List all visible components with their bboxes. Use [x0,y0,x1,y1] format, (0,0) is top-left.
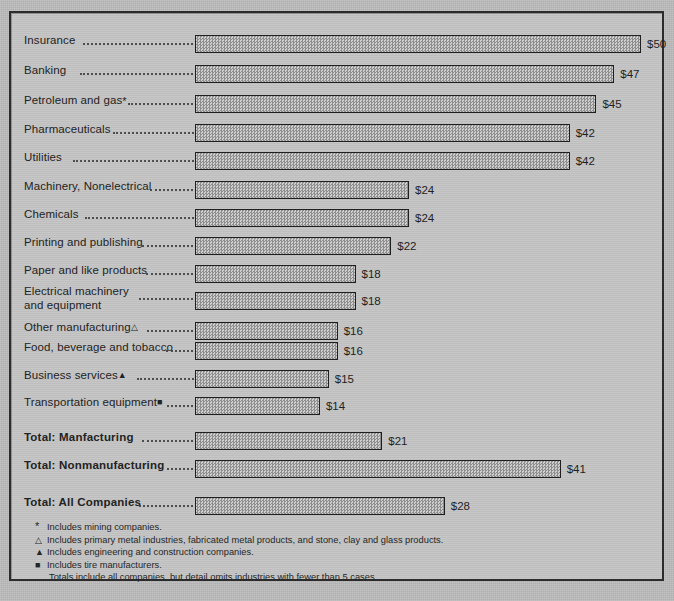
bar-row: Food, beverage and tobacco$16 [11,342,662,364]
footnotes-list: *Includes mining companies.△Includes pri… [35,521,635,584]
bar-row: Electrical machineryand equipment$18 [11,286,662,308]
footnote: ■Includes tire manufacturers. [35,559,635,572]
footnote-symbol-icon: ▲ [35,546,46,559]
bar-row: Total: Manfacturing$21 [11,432,662,454]
bar [195,265,356,283]
footnote-text: Includes tire manufacturers. [47,560,162,570]
bar-value-label: $45 [602,95,621,113]
leader-dots [142,245,201,249]
bar-value-label: $24 [415,181,434,199]
footnote: Totals include all companies, but detail… [35,571,635,584]
leader-dots [139,505,201,509]
leader-dots [137,378,201,382]
leader-dots [113,132,201,136]
footnote-marker-icon: ■ [157,397,163,407]
leader-dots [150,189,201,193]
bar-row: Insurance$50 [11,35,662,57]
bar [195,152,570,170]
bar-row-label: Transportation equipment■ [24,397,189,409]
bar [195,181,409,199]
footnote: *Includes mining companies. [35,521,635,534]
bar-value-label: $47 [620,65,639,83]
bar [195,460,561,478]
bar [195,95,596,113]
footnote-marker-icon: △ [131,322,138,332]
bar [195,432,382,450]
footnote-text: Includes mining companies. [47,522,162,532]
leader-dots [73,160,201,164]
footnote: △Includes primary metal industries, fabr… [35,534,635,547]
bar [195,237,391,255]
scanned-page: Insurance$50Banking$47Petroleum and gas*… [0,0,674,601]
bar [195,397,320,415]
bar-row: Total: Nonmanufacturing$41 [11,460,662,482]
bar-row: Machinery, Nonelectrical$24 [11,181,662,203]
leader-dots [139,298,201,302]
bar [195,322,338,340]
bar-row: Utilities$42 [11,152,662,174]
bar-row: Pharmaceuticals$42 [11,124,662,146]
bar-value-label: $16 [344,342,363,360]
bar-value-label: $50 [647,35,666,53]
bar-row: Banking$47 [11,65,662,87]
chart-frame: Insurance$50Banking$47Petroleum and gas*… [9,11,664,581]
bar [195,292,356,310]
bar-row: Printing and publishing$22 [11,237,662,259]
bar [195,124,570,142]
bar-value-label: $14 [326,397,345,415]
bar-value-label: $24 [415,209,434,227]
bar-row: Total: All Companies$28 [11,497,662,519]
footnote-text: Includes primary metal industries, fabri… [47,535,443,545]
footnote-symbol-icon: ■ [35,559,46,572]
leader-dots [146,273,201,277]
bar-row: Petroleum and gas*$45 [11,95,662,117]
bar-value-label: $22 [397,237,416,255]
bar-value-label: $18 [362,265,381,283]
footnote-symbol-icon: * [35,520,46,533]
bar-value-label: $28 [451,497,470,515]
bar-value-label: $18 [362,292,381,310]
bar [195,370,329,388]
leader-dots [83,43,201,47]
bar [195,35,641,53]
bar [195,65,614,83]
leader-dots [142,440,201,444]
leader-dots [85,217,201,221]
leader-dots [128,103,201,107]
bar-value-label: $16 [344,322,363,340]
leader-dots [147,330,201,334]
bar-row-label: Food, beverage and tobacco [24,342,189,354]
bar-value-label: $15 [335,370,354,388]
bar-row: Transportation equipment■$14 [11,397,662,419]
bar-row: Paper and like products$18 [11,265,662,287]
bar-value-label: $42 [576,152,595,170]
bar-row: Business services▲$15 [11,370,662,392]
footnote-symbol-icon: △ [35,534,46,547]
footnote-text: Includes engineering and construction co… [47,547,254,557]
leader-dots [80,73,201,77]
bar-value-label: $41 [567,460,586,478]
bar-value-label: $42 [576,124,595,142]
bar [195,342,338,360]
bar [195,209,409,227]
footnote-marker-icon: ▲ [118,370,127,380]
bar-value-label: $21 [388,432,407,450]
footnote-marker-icon: * [122,95,126,107]
bar-row: Chemicals$24 [11,209,662,231]
footnote: ▲Includes engineering and construction c… [35,546,635,559]
bar-row-label: Total: Nonmanufacturing [24,460,189,472]
footnote-text: Totals include all companies, but detail… [49,572,377,582]
bar [195,497,445,515]
